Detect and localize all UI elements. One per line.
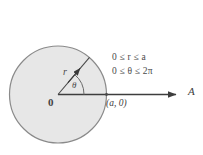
constraint-theta: 0 ≤ θ ≤ 2π xyxy=(112,65,153,79)
polar-region-figure: r θ 0 (a, 0) A 0 ≤ r ≤ a 0 ≤ θ ≤ 2π xyxy=(0,0,203,155)
constraints-block: 0 ≤ r ≤ a 0 ≤ θ ≤ 2π xyxy=(112,51,153,79)
figure-canvas xyxy=(0,0,203,155)
origin-label: 0 xyxy=(48,97,54,108)
axis-ray-label: A xyxy=(188,86,195,97)
constraint-r: 0 ≤ r ≤ a xyxy=(112,51,153,65)
radius-label: r xyxy=(63,67,67,77)
boundary-point-label: (a, 0) xyxy=(106,99,127,109)
boundary-point-marker xyxy=(105,93,108,96)
theta-label: θ xyxy=(72,81,76,90)
